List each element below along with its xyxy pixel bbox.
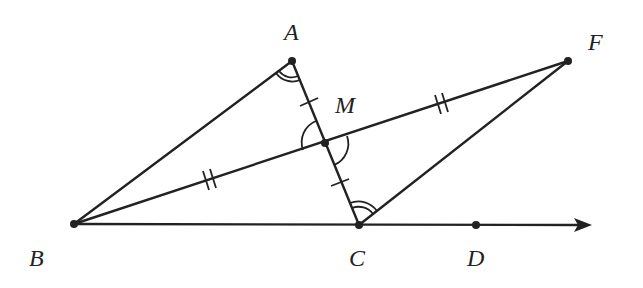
label-f: F [587, 29, 603, 55]
label-c: C [349, 245, 366, 271]
point-c [355, 221, 363, 229]
point-m [321, 139, 329, 147]
point-d [472, 221, 480, 229]
angle-arc-a-inner [279, 71, 298, 77]
label-a: A [282, 19, 299, 45]
point-b [70, 220, 78, 228]
segment-cf [359, 61, 568, 225]
angle-arc-c-outer [350, 201, 377, 211]
label-m: M [334, 92, 357, 118]
point-f [564, 57, 572, 65]
label-b: B [29, 245, 44, 271]
angle-arc-m-right [334, 136, 348, 165]
label-d: D [466, 245, 484, 271]
point-a [288, 57, 296, 65]
geometry-diagram: A B C D F M [0, 0, 643, 288]
ray-bd [74, 224, 578, 225]
segment-ab [74, 61, 292, 224]
segment-bf [74, 61, 568, 224]
